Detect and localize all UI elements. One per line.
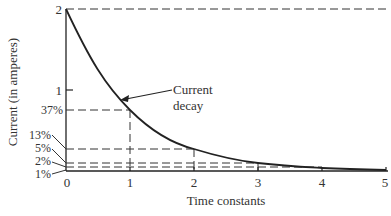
pct-label-2: 2% bbox=[35, 154, 51, 168]
annotation-line2: decay bbox=[173, 98, 204, 113]
current-decay-curve bbox=[66, 9, 386, 170]
x-tick-label-4: 4 bbox=[319, 175, 326, 190]
current-decay-chart: Current (in amperes) Current decay 2 1 3… bbox=[0, 0, 391, 216]
x-tick-label-3: 3 bbox=[255, 175, 262, 190]
x-tick-label-2: 2 bbox=[191, 175, 198, 190]
pct-label-1: 1% bbox=[35, 167, 51, 181]
reference-lines bbox=[66, 9, 388, 171]
annotation-line1: Current bbox=[173, 82, 213, 97]
pct-leader-lines bbox=[52, 135, 66, 174]
x-axis-label: Time constants bbox=[187, 193, 266, 208]
y-tick-label-2: 2 bbox=[56, 2, 63, 17]
pct-label-13: 13% bbox=[29, 128, 51, 142]
y-tick-label-1: 1 bbox=[56, 83, 63, 98]
y-axis-label: Current (in amperes) bbox=[5, 38, 20, 146]
x-tick-label-1: 1 bbox=[127, 175, 134, 190]
x-tick-label-0: 0 bbox=[64, 175, 71, 190]
x-tick-label-5: 5 bbox=[382, 175, 389, 190]
annotation-arrow-line bbox=[126, 90, 172, 99]
pct-label-5: 5% bbox=[35, 141, 51, 155]
pct-label-37: 37% bbox=[41, 103, 63, 117]
